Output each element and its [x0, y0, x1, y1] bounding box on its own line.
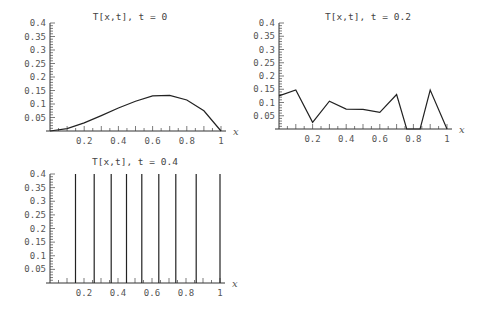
y-tick-label: 0.25 — [253, 58, 275, 68]
y-tick-label: 0.3 — [30, 196, 46, 206]
x-axis-label: x — [233, 126, 239, 137]
y-tick-label: 0.35 — [24, 183, 46, 193]
y-tick-label: 0.35 — [24, 32, 46, 42]
y-tick-label: 0.2 — [30, 72, 46, 82]
x-tick-label: 0.8 — [178, 288, 194, 298]
x-tick-label: 0.8 — [179, 136, 195, 146]
x-tick-label: 0.2 — [76, 136, 92, 146]
y-tick-label: 0.05 — [24, 113, 46, 123]
charts-canvas: T[x,t], t = 00.050.10.150.20.250.30.350.… — [0, 0, 487, 310]
y-tick-label: 0.2 — [259, 71, 275, 81]
x-tick-label: 0.6 — [372, 134, 388, 144]
x-tick-label: 0.4 — [338, 134, 354, 144]
plot-panel-2: T[x,t], t = 0.20.050.10.150.20.250.30.35… — [253, 11, 465, 144]
y-tick-label: 0.05 — [253, 111, 275, 121]
y-tick-label: 0.35 — [253, 31, 275, 41]
y-tick-label: 0.1 — [30, 99, 46, 109]
plot-title: T[x,t], t = 0 — [93, 11, 168, 22]
x-tick-label: 0.8 — [405, 134, 421, 144]
y-tick-label: 0.4 — [259, 18, 275, 28]
y-tick-label: 0.15 — [24, 237, 46, 247]
plot-title: T[x,t], t = 0.2 — [325, 11, 411, 22]
x-tick-label: 0.2 — [304, 134, 320, 144]
y-tick-label: 0.3 — [30, 45, 46, 55]
x-tick-label: 0.6 — [144, 136, 160, 146]
y-tick-label: 0.2 — [30, 224, 46, 234]
plot-title: T[x,t], t = 0.4 — [92, 156, 178, 167]
plot-panel-1: T[x,t], t = 00.050.10.150.20.250.30.350.… — [24, 11, 239, 146]
x-tick-label: 1 — [444, 134, 449, 144]
x-axis-label: x — [459, 124, 465, 135]
data-line — [50, 95, 221, 131]
y-tick-label: 0.1 — [259, 98, 275, 108]
y-tick-label: 0.05 — [24, 264, 46, 274]
x-tick-label: 1 — [218, 136, 223, 146]
y-tick-label: 0.25 — [24, 210, 46, 220]
x-tick-label: 0.4 — [110, 288, 126, 298]
x-tick-label: 0.6 — [144, 288, 160, 298]
plot-panel-3: T[x,t], t = 0.40.050.10.150.20.250.30.35… — [24, 156, 238, 298]
y-tick-label: 0.4 — [30, 18, 46, 28]
y-tick-label: 0.3 — [259, 45, 275, 55]
x-tick-label: 0.2 — [76, 288, 92, 298]
data-line — [279, 90, 447, 129]
y-tick-label: 0.15 — [24, 86, 46, 96]
y-tick-label: 0.1 — [30, 251, 46, 261]
x-tick-label: 0.4 — [110, 136, 126, 146]
y-tick-label: 0.25 — [24, 59, 46, 69]
x-tick-label: 1 — [217, 288, 222, 298]
y-tick-label: 0.4 — [30, 169, 46, 179]
x-axis-label: x — [232, 278, 238, 289]
y-tick-label: 0.15 — [253, 84, 275, 94]
